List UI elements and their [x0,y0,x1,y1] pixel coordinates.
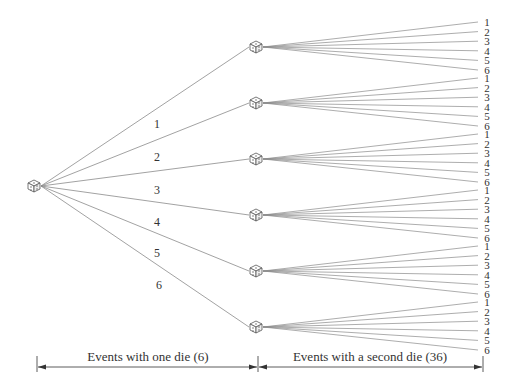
first-die-outcome-label: 4 [154,215,160,229]
tree-branches [41,22,478,350]
branch-labels: 1123456212345631234564123456512345661234… [154,16,490,356]
first-die-outcome-label: 3 [154,183,160,197]
die-icon [250,41,262,53]
axis-label-second-die: Events with a second die (36) [293,349,447,364]
first-die-outcome-label: 2 [154,150,160,164]
die-icon [250,321,262,333]
die-icon [28,180,40,192]
first-die-outcome-label: 1 [154,117,160,131]
bottom-axis: Events with one die (6) Events with a se… [37,349,483,372]
second-die-outcome-label: 6 [484,344,490,356]
die-icon [250,209,262,221]
die-icon [250,97,262,109]
die-icon [250,153,262,165]
dice-nodes [28,41,262,333]
probability-tree-diagram: 1123456212345631234564123456512345661234… [0,0,512,388]
axis-label-one-die: Events with one die (6) [87,349,208,364]
first-die-outcome-label: 5 [154,246,160,260]
die-icon [250,265,262,277]
first-die-outcome-label: 6 [156,278,162,292]
